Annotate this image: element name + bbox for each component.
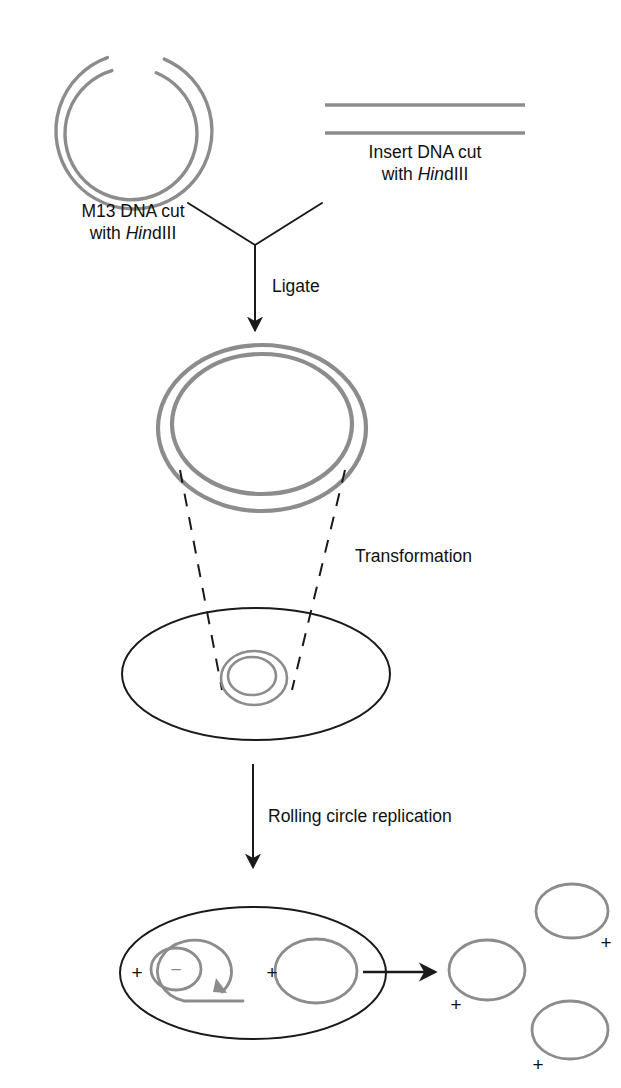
- m13-label-line1: M13 DNA cut: [81, 201, 184, 221]
- released-topright-plus-sign: +: [600, 932, 611, 953]
- replicating-cell-outline: [120, 907, 386, 1039]
- released-phage-circles-group: [449, 884, 608, 1059]
- ligated-plasmid-outer-strand: [158, 345, 366, 511]
- released-left-plus-sign: +: [450, 994, 461, 1015]
- cell-right-plus-sign: +: [266, 962, 277, 983]
- m13-outer-strand-arc: [56, 58, 212, 209]
- released-phage-circle-top-right: [536, 884, 608, 938]
- ligated-plasmid-inner-strand: [172, 354, 352, 494]
- daughter-phage-circle-in-cell: [275, 939, 357, 1003]
- cell-left-plus-sign: +: [131, 962, 142, 983]
- cell-plasmid-inner-strand: [228, 657, 276, 695]
- m13-label-line2: with HindIII: [89, 223, 177, 243]
- ligate-arrow-right-branch: [255, 203, 322, 245]
- cloning-diagram-canvas: M13 DNA cut with HindIII Insert DNA cut …: [0, 0, 621, 1088]
- ligate-arrow-group: [188, 203, 322, 330]
- insert-label-dIII: dIII: [444, 164, 468, 184]
- m13-label-hin: Hin: [126, 223, 152, 243]
- transformed-cell-outline: [122, 608, 390, 740]
- diagram-root: M13 DNA cut with HindIII Insert DNA cut …: [0, 0, 621, 1088]
- ligate-arrow-left-branch: [188, 203, 255, 245]
- released-phage-circle-left: [449, 940, 525, 1000]
- released-phage-circle-bottom-right: [532, 1001, 608, 1059]
- transformed-cell-plasmid: [221, 651, 287, 705]
- ligate-label: Ligate: [272, 276, 320, 296]
- rolling-circle-label: Rolling circle replication: [268, 806, 452, 826]
- insert-label-line1: Insert DNA cut: [369, 142, 482, 162]
- m13-label-dIII: dIII: [152, 223, 176, 243]
- m13-dna-open-circle: [56, 58, 212, 209]
- ligated-plasmid: [158, 345, 366, 511]
- m13-label-with: with: [89, 223, 126, 243]
- rolling-circle-direction-arrowhead: [213, 978, 227, 993]
- m13-inner-strand-arc: [65, 71, 197, 200]
- insert-label-line2: with HindIII: [381, 164, 469, 184]
- transformation-guide-lines: [180, 470, 345, 690]
- insert-label-hin: Hin: [418, 164, 444, 184]
- transformation-label: Transformation: [355, 546, 472, 566]
- insert-label-with: with: [381, 164, 418, 184]
- rolling-circle-structure: [151, 940, 243, 1001]
- insert-dna-duplex: [325, 105, 525, 133]
- released-bottomright-plus-sign: +: [532, 1054, 543, 1075]
- cell-inner-minus-sign: −: [170, 959, 181, 980]
- transformation-guide-right: [292, 470, 345, 690]
